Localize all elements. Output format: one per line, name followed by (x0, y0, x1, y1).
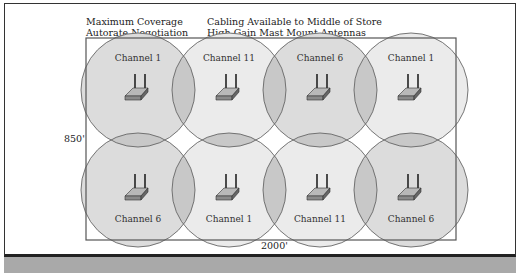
router-front-icon (307, 96, 323, 100)
channel-label: Channel 6 (115, 214, 162, 224)
channel-label: Channel 6 (297, 53, 344, 63)
router-front-icon (398, 96, 414, 100)
coverage-diagram: Channel 1Channel 11Channel 6Channel 1Cha… (0, 0, 521, 273)
channel-label: Channel 1 (115, 53, 161, 63)
channel-label: Channel 1 (388, 53, 434, 63)
channel-label: Channel 11 (203, 53, 255, 63)
router-front-icon (216, 96, 232, 100)
router-front-icon (125, 196, 141, 200)
bottom-bar (4, 257, 516, 273)
router-front-icon (125, 96, 141, 100)
channel-label: Channel 6 (388, 214, 435, 224)
router-front-icon (307, 196, 323, 200)
channel-label: Channel 11 (294, 214, 346, 224)
router-front-icon (216, 196, 232, 200)
channel-label: Channel 1 (206, 214, 252, 224)
router-front-icon (398, 196, 414, 200)
